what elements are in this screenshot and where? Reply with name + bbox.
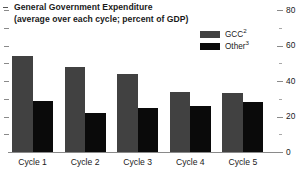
- bar-gcc-cycle-3: [117, 74, 138, 152]
- category-label-cycle-4: Cycle 4: [162, 157, 219, 167]
- y-tick-label-60: 60: [286, 41, 295, 50]
- y-left-tick-60: [4, 46, 9, 47]
- y-left-tick-50: [4, 63, 9, 64]
- category-label-cycle-3: Cycle 3: [109, 157, 166, 167]
- chart-container: General Government Expenditure (average …: [0, 0, 303, 177]
- y-left-tick-80: [4, 10, 9, 11]
- bar-gcc-cycle-1: [12, 56, 33, 152]
- bar-other-cycle-4: [190, 106, 211, 152]
- x-axis-baseline: [8, 152, 277, 153]
- y-tick-label-80: 80: [286, 6, 295, 15]
- y-tick-80: [277, 10, 283, 11]
- category-label-cycle-2: Cycle 2: [57, 157, 114, 167]
- y-tick-60: [277, 46, 283, 47]
- bar-gcc-cycle-2: [65, 67, 86, 152]
- category-label-cycle-5: Cycle 5: [214, 157, 271, 167]
- y-minor-tick-50: [279, 63, 282, 64]
- plot-area: 020406080 Cycle 1Cycle 2Cycle 3Cycle 4Cy…: [0, 0, 303, 177]
- y-left-tick-30: [4, 99, 9, 100]
- y-left-tick-40: [4, 81, 9, 82]
- y-left-tick-70: [4, 28, 9, 29]
- y-left-tick-10: [4, 134, 9, 135]
- bar-other-cycle-1: [33, 101, 54, 152]
- bar-other-cycle-3: [138, 108, 159, 152]
- bar-gcc-cycle-4: [170, 92, 191, 152]
- y-tick-label-0: 0: [286, 148, 291, 157]
- y-tick-0: [277, 152, 283, 153]
- y-tick-20: [277, 117, 283, 118]
- y-left-tick-20: [4, 117, 9, 118]
- y-minor-tick-30: [279, 99, 282, 100]
- y-tick-label-40: 40: [286, 77, 295, 86]
- y-minor-tick-70: [279, 28, 282, 29]
- bar-other-cycle-5: [243, 102, 264, 152]
- y-minor-tick-10: [279, 134, 282, 135]
- bar-other-cycle-2: [85, 113, 106, 152]
- y-tick-40: [277, 81, 283, 82]
- y-tick-label-20: 20: [286, 112, 295, 121]
- bar-gcc-cycle-5: [222, 93, 243, 152]
- category-label-cycle-1: Cycle 1: [4, 157, 61, 167]
